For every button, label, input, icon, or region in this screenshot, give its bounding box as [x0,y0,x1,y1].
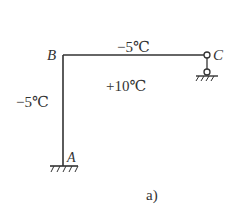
node-label-c: C [213,47,224,63]
temp-outside-top: −5℃ [117,39,150,55]
frame-diagram: B C A −5℃ +10℃ −5℃ a) [0,0,250,213]
temp-inside: +10℃ [106,78,146,94]
figure-caption: a) [146,187,158,204]
fixed-support-a-icon [50,166,78,172]
node-label-b: B [47,47,56,63]
node-label-a: A [66,150,76,165]
temp-outside-left: −5℃ [16,94,49,110]
